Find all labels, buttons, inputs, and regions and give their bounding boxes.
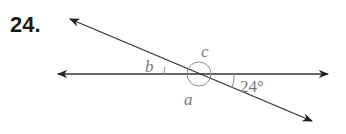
angle-arc-24	[232, 74, 234, 88]
angle-arc-b	[164, 67, 165, 74]
angle-label-a: a	[184, 90, 193, 109]
intersecting-lines-diagram: b c a 24°	[0, 0, 346, 134]
angle-label-24: 24°	[240, 77, 264, 96]
angle-label-c: c	[201, 42, 209, 61]
angle-label-b: b	[145, 57, 154, 76]
